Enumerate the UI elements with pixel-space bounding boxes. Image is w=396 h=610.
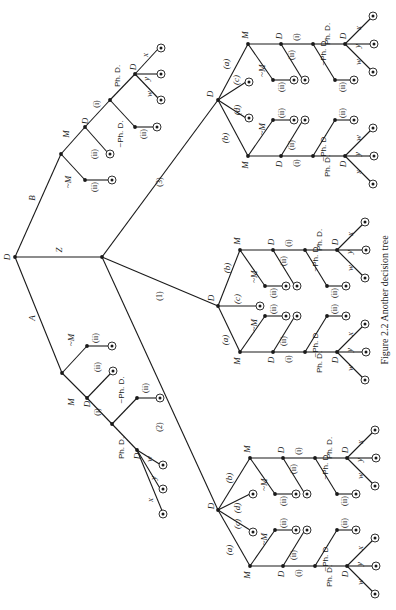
terminal-dot-icon [364, 221, 367, 224]
edge-label: y [344, 348, 354, 353]
edge [347, 432, 373, 458]
terminal-dot-icon [296, 285, 299, 288]
terminal-dot-icon [111, 345, 114, 348]
edge-label: (i) [294, 569, 303, 577]
terminal-dot-icon [306, 493, 309, 496]
edge-label: D [266, 356, 276, 364]
terminal-dot-icon [355, 529, 358, 532]
terminal-dot-icon [373, 43, 376, 46]
edge-label: x [140, 53, 150, 58]
edge-label: (ii) [269, 304, 278, 314]
edge-label: x [355, 440, 365, 445]
edge-label: (b) [224, 473, 234, 484]
edge-label: (ii) [279, 336, 288, 346]
edge-label: Ph. D. [325, 565, 334, 587]
terminal-dot-icon [355, 493, 358, 496]
edge-label: (ii) [279, 256, 288, 266]
terminal-dot-icon [375, 457, 378, 460]
terminal-dot-icon [159, 397, 162, 400]
edge-label: (ii) [338, 108, 347, 118]
edge-label: (ii) [338, 82, 347, 92]
edge-label: ~M [63, 175, 73, 188]
edge-label: w [355, 473, 365, 479]
edge-label: w [345, 365, 355, 371]
root-decision-label: D [2, 253, 12, 261]
edge [87, 373, 111, 398]
edge-label: D [330, 238, 340, 246]
edge-label: (a) [224, 545, 234, 556]
terminal-dot-icon [162, 513, 165, 516]
terminal-dot-icon [375, 565, 378, 568]
branch-B [15, 154, 61, 257]
edge [283, 458, 305, 494]
edge-label: (c) [232, 294, 242, 304]
edge-label: M [240, 31, 250, 40]
edge-label: D [205, 90, 215, 98]
edge-label: (i) [292, 159, 301, 167]
edge-label: D [340, 570, 350, 578]
branch-label-Z: Z [54, 247, 64, 253]
edge-label: w [144, 456, 154, 462]
edge-label: D [128, 63, 138, 71]
terminal-dot-icon [372, 127, 375, 130]
edge-label: y [344, 250, 354, 255]
edge-label: ~M [249, 270, 259, 283]
edge-label: (ii) [93, 362, 102, 372]
edge [218, 510, 250, 566]
terminal-dot-icon [162, 488, 165, 491]
edge-label: (i) [292, 33, 301, 41]
edge-label: ~Ph. D. [117, 377, 126, 404]
terminal-dot-icon [109, 153, 112, 156]
edge-label: (a) [221, 59, 231, 70]
terminal-dot-icon [372, 15, 375, 18]
branch-label-A: A [27, 315, 37, 322]
edge-label: (ii) [139, 129, 148, 139]
edge-label: (ii) [269, 288, 278, 298]
edge [345, 156, 371, 182]
terminal-dot-icon [111, 179, 114, 182]
terminal-dot-icon [304, 119, 307, 122]
edge-label: (b) [222, 263, 232, 274]
terminal-dot-icon [296, 315, 299, 318]
edge-label: x [353, 170, 363, 175]
edge-label: M [242, 571, 252, 580]
edge-label: (ii) [289, 464, 298, 474]
edge-label: M [61, 130, 71, 139]
terminal-dot-icon [374, 429, 377, 432]
edge-label: (ii) [277, 82, 286, 92]
edge-label: w [353, 135, 363, 141]
edge-label: Ph. D. [325, 437, 334, 459]
terminal-dot-icon [252, 531, 255, 534]
terminal-dot-icon [112, 370, 115, 373]
edge [62, 373, 87, 398]
edge-label: w [355, 579, 365, 585]
edge-label: D [206, 294, 216, 302]
edge-label: Ph. D. [117, 437, 126, 459]
terminal-dot-icon [285, 315, 288, 318]
edge-label: (ii) [91, 333, 100, 343]
edge-label: (ii) [90, 182, 99, 192]
edge-label: (c) [232, 519, 242, 529]
edge-label: D [206, 502, 216, 510]
terminal-dot-icon [259, 305, 262, 308]
edge-label: (i) [284, 355, 293, 363]
terminal-dot-icon [160, 47, 163, 50]
terminal-dot-icon [364, 379, 367, 382]
decision-tree-diagram: DBAZ~M(ii)MD(ii)(i)~Ph. D.(ii)Ph. D.Dxyw… [0, 0, 396, 610]
edge-label: D [80, 117, 90, 125]
edge-label: x [353, 26, 363, 31]
edge-label: (b) [220, 133, 230, 144]
edge-label: D [340, 446, 350, 454]
terminal-dot-icon [295, 529, 298, 532]
edge [337, 224, 363, 250]
terminal-dot-icon [306, 529, 309, 532]
branch-A [15, 257, 62, 373]
edge-label: D [338, 32, 348, 40]
terminal-dot-icon [345, 315, 348, 318]
terminal-dot-icon [353, 79, 356, 82]
edge [218, 44, 248, 100]
edge-label: (c) [231, 75, 241, 85]
terminal-dot-icon [160, 99, 163, 102]
terminal-dot-icon [345, 285, 348, 288]
tree-layer: DBAZ~M(ii)MD(ii)(i)~Ph. D.(ii)Ph. D.Dxyw… [2, 12, 380, 598]
